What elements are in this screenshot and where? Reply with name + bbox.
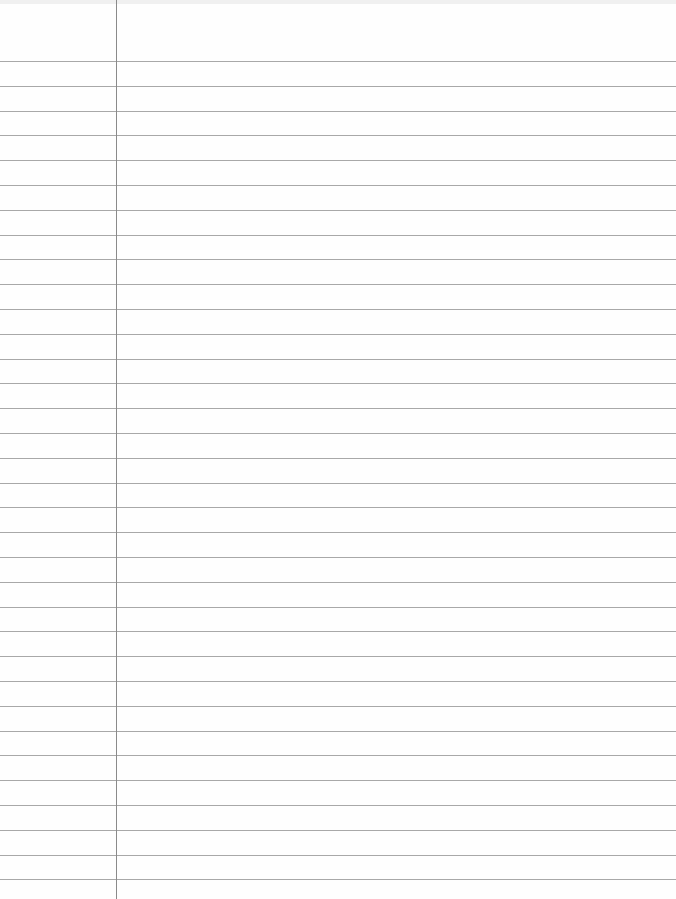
ruled-line <box>0 607 676 608</box>
ruled-line <box>0 284 676 285</box>
ruled-line <box>0 656 676 657</box>
ruled-line <box>0 185 676 186</box>
ruled-line <box>0 458 676 459</box>
ruled-line <box>0 582 676 583</box>
ruled-line <box>0 210 676 211</box>
ruled-line <box>0 383 676 384</box>
ruled-line <box>0 334 676 335</box>
ruled-line <box>0 359 676 360</box>
ruled-line <box>0 557 676 558</box>
ruled-line <box>0 706 676 707</box>
ruled-line <box>0 433 676 434</box>
ruled-line <box>0 532 676 533</box>
ruled-line <box>0 259 676 260</box>
ruled-line <box>0 830 676 831</box>
ruled-line <box>0 235 676 236</box>
top-edge <box>0 0 676 4</box>
ruled-line <box>0 755 676 756</box>
ruled-line <box>0 408 676 409</box>
ruled-line <box>0 681 676 682</box>
ruled-line <box>0 731 676 732</box>
ruled-line <box>0 631 676 632</box>
ruled-line <box>0 309 676 310</box>
ruled-line <box>0 805 676 806</box>
margin-line <box>116 0 117 899</box>
ruled-line <box>0 135 676 136</box>
ruled-line <box>0 111 676 112</box>
ruled-line <box>0 86 676 87</box>
ruled-line <box>0 780 676 781</box>
lined-paper <box>0 0 676 899</box>
ruled-line <box>0 879 676 880</box>
ruled-line <box>0 507 676 508</box>
ruled-line <box>0 855 676 856</box>
ruled-line <box>0 160 676 161</box>
ruled-line <box>0 483 676 484</box>
ruled-line <box>0 61 676 62</box>
